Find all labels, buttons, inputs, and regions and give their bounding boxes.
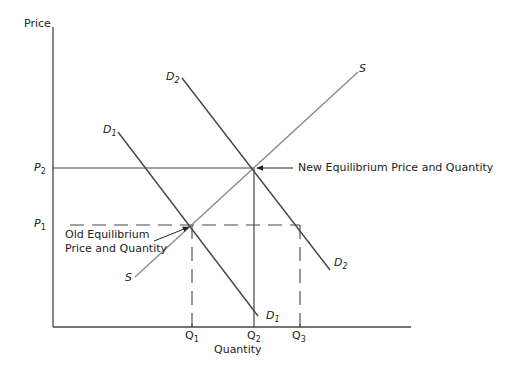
quantity-label-q1: Q1 — [185, 330, 199, 344]
demand-curve-d2 — [182, 78, 330, 270]
supply-label-top: S — [359, 63, 366, 74]
q3-subscript: 3 — [301, 335, 306, 344]
p2-letter: P — [34, 161, 41, 174]
d1-subscript: 1 — [274, 315, 279, 324]
price-label-p1: P1 — [34, 218, 46, 232]
old-equilibrium-arrow — [154, 227, 189, 241]
supply-curve — [135, 72, 358, 277]
q2-subscript: 2 — [256, 335, 261, 344]
supply-demand-diagram — [0, 0, 508, 375]
demand-label-d1-bottom: D1 — [266, 310, 280, 324]
demand-label-d2-top: D2 — [166, 71, 180, 85]
d1-subscript: 1 — [111, 129, 116, 138]
y-axis-label: Price — [24, 18, 51, 29]
new-equilibrium-label: New Equilibrium Price and Quantity — [298, 162, 493, 173]
p1-letter: P — [34, 217, 41, 230]
demand-label-d1-top: D1 — [103, 124, 117, 138]
q1-subscript: 1 — [194, 335, 199, 344]
d2-subscript: 2 — [174, 76, 179, 85]
old-equilibrium-label-line2: Price and Quantity — [65, 243, 167, 254]
p1-subscript: 1 — [41, 223, 46, 232]
quantity-label-q2: Q2 — [247, 330, 261, 344]
q3-letter: Q — [292, 329, 301, 342]
p2-subscript: 2 — [41, 167, 46, 176]
demand-curve-d1 — [118, 132, 258, 316]
q1-letter: Q — [185, 329, 194, 342]
d2-subscript: 2 — [342, 262, 347, 271]
supply-label-bottom: S — [125, 272, 132, 283]
q2-letter: Q — [247, 329, 256, 342]
old-equilibrium-label-line1: Old Equilibrium — [65, 229, 150, 240]
x-axis-label: Quantity — [214, 344, 262, 355]
demand-label-d2-bottom: D2 — [334, 257, 348, 271]
price-label-p2: P2 — [34, 162, 46, 176]
quantity-label-q3: Q3 — [292, 330, 306, 344]
